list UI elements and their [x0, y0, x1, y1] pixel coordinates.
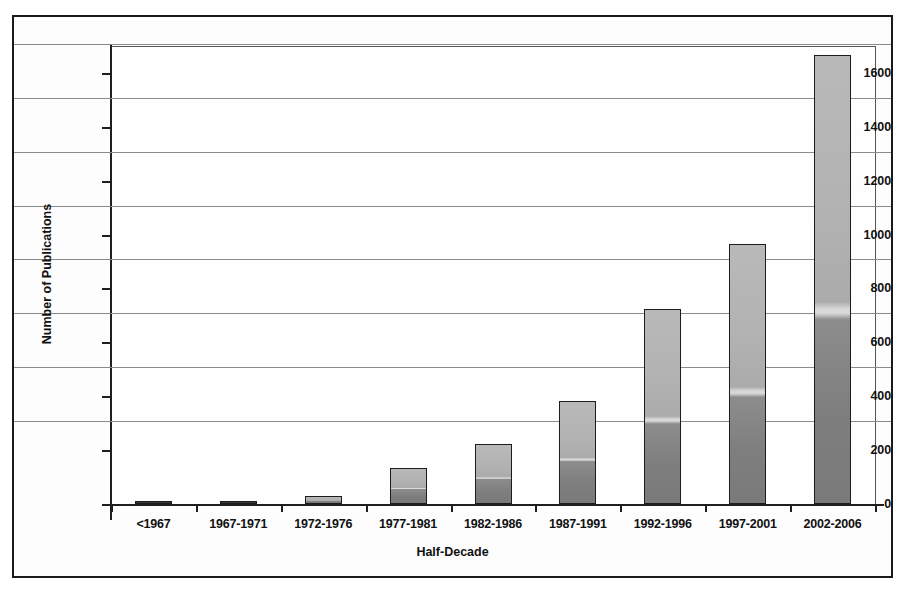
bar-chart: 02004006008001000120014001600 <19671967-… — [14, 17, 891, 576]
x-axis-category-label: 1967-1971 — [209, 517, 267, 531]
x-axis-tick — [705, 504, 707, 512]
bar — [729, 244, 766, 504]
y-axis-tick — [102, 288, 111, 290]
bar — [644, 309, 681, 504]
y-axis-line — [110, 45, 112, 520]
figure-frame: 02004006008001000120014001600 <19671967-… — [12, 15, 893, 578]
x-axis-category-label: 1977-1981 — [379, 517, 437, 531]
x-axis-tick — [196, 504, 198, 512]
gridline — [14, 44, 891, 45]
x-axis-tick — [535, 504, 537, 512]
x-axis-category-label: 1982-1986 — [464, 517, 522, 531]
y-axis-tick — [102, 504, 111, 506]
y-axis-title: Number of Publications — [40, 174, 54, 374]
x-axis-tick — [366, 504, 368, 512]
gridline — [14, 206, 891, 207]
gridline — [14, 98, 891, 99]
x-axis-category-label: 1992-1996 — [634, 517, 692, 531]
x-axis-category-label: 1997-2001 — [719, 517, 777, 531]
x-axis-title: Half-Decade — [14, 545, 891, 559]
bar — [135, 501, 172, 504]
gridline — [14, 152, 891, 153]
x-axis-tick — [111, 504, 113, 512]
x-axis-line — [102, 504, 884, 506]
y-axis-tick — [102, 342, 111, 344]
x-axis-tick — [451, 504, 453, 512]
x-axis-tick — [620, 504, 622, 512]
y-axis-tick — [102, 396, 111, 398]
bar — [220, 501, 257, 504]
bar — [475, 444, 512, 504]
x-axis-tick — [790, 504, 792, 512]
x-axis-category-label: 1987-1991 — [549, 517, 607, 531]
bar — [305, 496, 342, 504]
x-axis-category-label: <1967 — [136, 517, 170, 531]
x-axis-category-label: 1972-1976 — [294, 517, 352, 531]
x-axis-tick — [281, 504, 283, 512]
bar — [390, 468, 427, 504]
y-axis-tick — [102, 181, 111, 183]
x-axis-category-label: 2002-2006 — [804, 517, 862, 531]
bar — [814, 55, 851, 504]
x-axis-tick — [875, 504, 877, 512]
y-axis-tick — [102, 73, 111, 75]
bar — [559, 401, 596, 504]
y-axis-tick — [102, 235, 111, 237]
y-axis-tick — [102, 127, 111, 129]
y-axis-tick — [102, 450, 111, 452]
